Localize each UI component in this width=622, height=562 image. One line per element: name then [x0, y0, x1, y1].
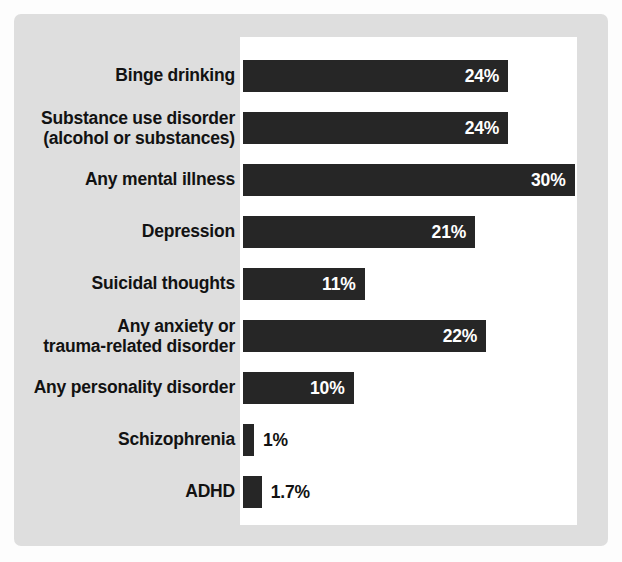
- bar-category-label: Substance use disorder (alcohol or subst…: [41, 109, 235, 148]
- bar-value-label: 30%: [531, 170, 565, 191]
- bar-value-label: 24%: [465, 118, 499, 139]
- bar-value-label: 24%: [465, 66, 499, 87]
- bar-value-label: 11%: [322, 274, 355, 295]
- bar-wrapper: 22%: [243, 320, 486, 352]
- bar-row: Binge drinking24%: [0, 60, 622, 92]
- bar-value-label: 1%: [263, 430, 288, 451]
- bar-wrapper: 1%: [243, 424, 254, 456]
- bar-category-label: Binge drinking: [115, 66, 235, 86]
- bar-wrapper: 24%: [243, 60, 508, 92]
- bar: [243, 164, 575, 196]
- bar-category-label: Any mental illness: [85, 170, 235, 190]
- bar-wrapper: 24%: [243, 112, 508, 144]
- bar-value-label: 1.7%: [271, 482, 310, 503]
- bar-row: Any personality disorder10%: [0, 372, 622, 404]
- bar-category-label: Any anxiety or trauma-related disorder: [43, 317, 235, 356]
- bar-row: ADHD1.7%: [0, 476, 622, 508]
- bar: [243, 424, 254, 456]
- bar-row: Depression21%: [0, 216, 622, 248]
- bar-wrapper: 30%: [243, 164, 575, 196]
- bar-wrapper: 1.7%: [243, 476, 262, 508]
- bar: [243, 476, 262, 508]
- bar-category-label: Any personality disorder: [34, 378, 235, 398]
- bar-category-label: Suicidal thoughts: [92, 274, 235, 294]
- chart-figure: Binge drinking24%Substance use disorder …: [0, 0, 622, 562]
- bar-row: Schizophrenia1%: [0, 424, 622, 456]
- bar-row: Substance use disorder (alcohol or subst…: [0, 112, 622, 144]
- bar-value-label: 22%: [443, 326, 477, 347]
- bar-category-label: ADHD: [185, 482, 235, 502]
- bar-wrapper: 11%: [243, 268, 365, 300]
- bar-wrapper: 21%: [243, 216, 475, 248]
- bar-row: Any anxiety or trauma-related disorder22…: [0, 320, 622, 352]
- bar-category-label: Depression: [142, 222, 235, 242]
- bar-value-label: 10%: [310, 378, 344, 399]
- bar-wrapper: 10%: [243, 372, 354, 404]
- bar-row: Any mental illness30%: [0, 164, 622, 196]
- bar-category-label: Schizophrenia: [118, 430, 235, 450]
- bar-row: Suicidal thoughts11%: [0, 268, 622, 300]
- bar-value-label: 21%: [432, 222, 466, 243]
